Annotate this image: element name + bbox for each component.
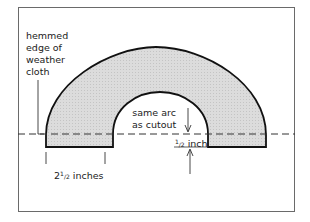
half-inch-label: 1/2 inch bbox=[175, 136, 208, 151]
hemmed-edge-label: hemmed edge of weather cloth bbox=[26, 30, 68, 78]
arch-shape bbox=[46, 47, 266, 147]
arrow-up-icon bbox=[187, 149, 193, 174]
same-arc-label: same arc as cutout bbox=[132, 107, 176, 131]
arrow-down-icon bbox=[185, 108, 191, 132]
width-dimension-label: 21/2 inches bbox=[54, 168, 103, 183]
